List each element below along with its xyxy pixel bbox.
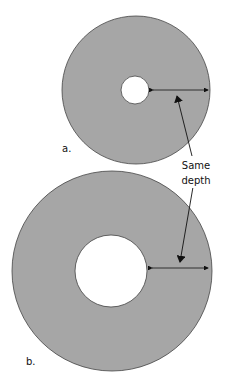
disk-b — [12, 171, 212, 371]
figure-label-b: b. — [26, 356, 36, 367]
figure-label-a: a. — [62, 143, 71, 154]
annotation-line-2: depth — [178, 173, 214, 188]
disks-diagram — [0, 0, 230, 389]
same-depth-annotation: Same depth — [178, 158, 214, 188]
disk-a — [62, 16, 210, 164]
annotation-line-1: Same — [178, 158, 214, 173]
